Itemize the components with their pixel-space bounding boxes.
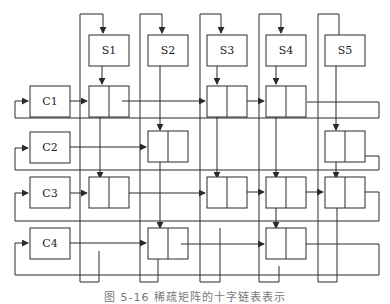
column-head-s4: S4 [266,35,306,66]
svg-text:S3: S3 [220,44,235,57]
svg-text:S2: S2 [161,44,176,57]
svg-text:S1: S1 [102,44,117,57]
row-head-c2: C2 [30,132,70,163]
node-r1-c3 [207,86,247,117]
node-pointers [122,101,188,244]
column-head-s5: S5 [325,35,365,66]
node-r3-c3 [207,177,247,208]
node-r2-c2 [148,131,188,162]
svg-text:C3: C3 [42,187,57,200]
row-head-c1: C1 [30,86,70,117]
row-head-c3: C3 [30,177,70,208]
column-head-s1: S1 [89,35,129,66]
row-arrows [70,101,323,244]
column-head-s3: S3 [207,35,247,66]
svg-text:C1: C1 [42,95,57,108]
node-r3-c1 [89,177,129,208]
element-nodes [89,86,365,259]
svg-text:C2: C2 [42,141,57,154]
svg-text:S4: S4 [279,44,294,57]
node-r3-c5 [325,177,365,208]
figure-caption: 图 5-16 稀疏矩阵的十字链表表示 [0,288,390,304]
column-head-s2: S2 [148,35,188,66]
node-r2-c5 [325,131,365,162]
node-r3-c4 [266,177,306,208]
node-r1-c4 [266,86,306,117]
svg-text:S5: S5 [338,44,353,57]
svg-text:C4: C4 [42,237,57,250]
node-r4-c4 [266,228,306,259]
row-head-c4: C4 [30,228,70,259]
